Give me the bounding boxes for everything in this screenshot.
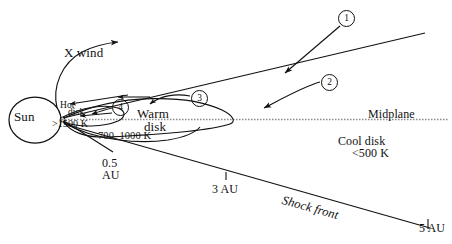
- cool-disk-temperature: <500 K: [352, 147, 389, 159]
- midplane-label: Midplane: [368, 108, 415, 120]
- sun-label: Sun: [14, 110, 35, 124]
- callout-number-4[interactable]: 4: [112, 99, 129, 116]
- au-0-5-label-line2: AU: [102, 169, 120, 181]
- callout-number-2[interactable]: 2: [321, 74, 338, 91]
- hot-disk-temperature: >1500 K: [52, 119, 88, 129]
- hot-disk-label-line2: disk: [68, 108, 84, 118]
- figure-canvas: Sun X wind Hot disk >1500 K Warm disk 70…: [0, 0, 452, 244]
- warm-disk-temperature: 700–1000 K: [98, 131, 151, 142]
- callout-number-3[interactable]: 3: [191, 90, 208, 107]
- au-5-label: 5 AU: [419, 222, 445, 234]
- callout-2-arrow[interactable]: [264, 82, 320, 108]
- au-3-label: 3 AU: [212, 183, 238, 195]
- callout-number-1[interactable]: 1: [338, 10, 355, 27]
- x-wind-label: X wind: [64, 46, 103, 60]
- callout-1-arrow[interactable]: [285, 26, 340, 73]
